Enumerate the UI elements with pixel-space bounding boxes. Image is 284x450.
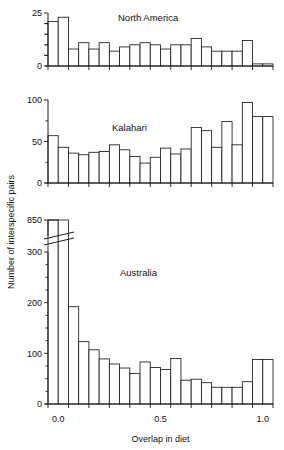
y-tick-label: 200 [27, 298, 42, 308]
histogram-bar [222, 51, 232, 66]
histogram-bar [150, 368, 160, 404]
histogram-bar [201, 131, 211, 183]
histogram-bar [99, 43, 109, 66]
histogram-bar [109, 364, 119, 404]
histogram-bar [161, 370, 171, 404]
histogram-bar [161, 49, 171, 66]
histogram-bar [120, 368, 130, 404]
histogram-bar [58, 147, 68, 183]
histogram-bar [99, 359, 109, 404]
histogram-bar [232, 145, 242, 183]
histogram-bar [109, 51, 119, 66]
histogram-bar [58, 220, 68, 404]
histogram-bar [253, 117, 263, 183]
histogram-bar [120, 47, 130, 66]
histogram-bar [171, 45, 181, 66]
histogram-bar [201, 383, 211, 404]
histogram-bar [181, 149, 191, 183]
histogram-bar [120, 150, 130, 183]
y-tick-label: 100 [27, 349, 42, 359]
histogram-bar [89, 49, 99, 66]
histogram-bar [79, 155, 89, 183]
histogram-bar [242, 41, 252, 66]
histogram-bar [191, 379, 201, 404]
histogram-bar [89, 152, 99, 183]
histogram-bar [232, 387, 242, 404]
histogram-bar [130, 156, 140, 183]
histogram-bar [201, 47, 211, 66]
histogram-bar [150, 157, 160, 183]
histogram-bar [130, 45, 140, 66]
histogram-bar [212, 387, 222, 404]
histogram-bar [232, 51, 242, 66]
histogram-bar [140, 362, 150, 404]
histogram-bar [68, 307, 78, 404]
histogram-bar [181, 45, 191, 66]
x-axis-title: Overlap in diet [131, 434, 190, 444]
panel-title-1: North America [118, 12, 179, 23]
panel-title-3: Australia [120, 267, 158, 278]
x-tick-label: 0.0 [52, 414, 65, 424]
histogram-bar [222, 122, 232, 183]
y-tick-label: 300 [27, 247, 42, 257]
histogram-bar [109, 145, 119, 183]
histogram-bar [171, 154, 181, 183]
histogram-bar [79, 43, 89, 66]
panel-title-2: Kalahari [112, 122, 147, 133]
x-tick-label: 0.5 [154, 414, 167, 424]
histogram-bar [212, 51, 222, 66]
histogram-bar [253, 359, 263, 404]
histogram-bar [263, 359, 273, 404]
y-tick-label: 25 [32, 8, 42, 18]
histogram-bar [130, 374, 140, 404]
histogram-bar [48, 220, 58, 404]
histogram-bar [68, 153, 78, 183]
histogram-bar [191, 38, 201, 66]
histogram-bar [48, 136, 58, 183]
y-tick-label-850: 850 [27, 215, 42, 225]
histogram-bar [99, 151, 109, 183]
histogram-bar [242, 102, 252, 183]
histogram-bar [150, 45, 160, 66]
y-tick-label: 0 [37, 399, 42, 409]
histogram-bar [181, 380, 191, 404]
histogram-bar [191, 127, 201, 183]
histogram-bar [263, 117, 273, 183]
histogram-bar [222, 387, 232, 404]
histogram-bar [48, 21, 58, 66]
histogram-bar [140, 43, 150, 66]
histogram-bar [58, 17, 68, 66]
histogram-bar [89, 350, 99, 404]
histogram-bar [68, 49, 78, 66]
y-tick-label: 50 [32, 137, 42, 147]
histogram-bar [212, 147, 222, 183]
three-panel-histogram-figure: 025North America050100Kalahari0100200300… [0, 0, 284, 450]
x-tick-label: 1.0 [257, 414, 270, 424]
histogram-bar [171, 358, 181, 404]
histogram-bar [161, 148, 171, 183]
y-tick-label: 0 [37, 178, 42, 188]
histogram-bar [242, 382, 252, 404]
histogram-bar [140, 163, 150, 183]
y-tick-label: 0 [37, 61, 42, 71]
y-tick-label: 100 [27, 95, 42, 105]
histogram-bar [79, 342, 89, 404]
y-axis-title: Number of interspecific pairs [6, 174, 16, 289]
figure-container: 025North America050100Kalahari0100200300… [0, 0, 284, 450]
